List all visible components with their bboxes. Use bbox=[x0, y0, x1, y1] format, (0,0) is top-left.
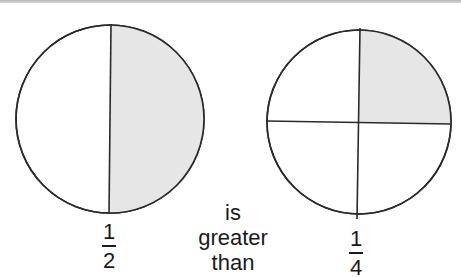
comparison-word-is: is bbox=[188, 200, 278, 225]
comparison-word-greater: greater bbox=[188, 225, 278, 250]
comparison-word-than: than bbox=[188, 250, 278, 275]
left-fraction-denominator: 2 bbox=[94, 250, 124, 272]
right-fraction-denominator: 4 bbox=[341, 257, 371, 278]
left-circle-halves bbox=[16, 24, 204, 214]
right-fraction-label: 1 4 bbox=[341, 228, 371, 278]
comparison-text: is greater than bbox=[188, 200, 278, 275]
left-fraction-bar bbox=[102, 245, 116, 247]
right-circle-shaded-quarter bbox=[359, 30, 451, 124]
left-fraction-numerator: 1 bbox=[94, 221, 124, 243]
right-fraction-numerator: 1 bbox=[341, 228, 371, 250]
left-fraction-label: 1 2 bbox=[94, 221, 124, 272]
right-circle-quarters bbox=[267, 28, 451, 219]
left-circle-shaded-half bbox=[109, 25, 204, 213]
right-fraction-bar bbox=[349, 252, 363, 254]
